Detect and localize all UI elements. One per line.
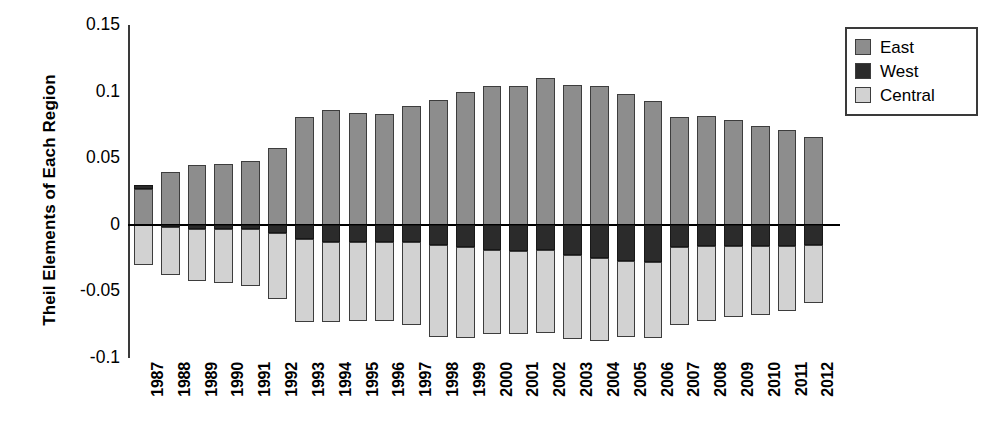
bar-segment-west[interactable] [456,225,475,248]
bar-segment-east[interactable] [644,101,663,225]
bar-segment-west[interactable] [617,225,636,261]
bar-segment-east[interactable] [214,164,233,225]
bar-segment-central[interactable] [536,250,555,333]
bar-segment-central[interactable] [241,229,260,286]
bar-segment-west[interactable] [349,225,368,242]
bar-segment-central[interactable] [778,246,797,311]
bar-group[interactable] [536,25,555,358]
bar-segment-west[interactable] [563,225,582,256]
bar-segment-west[interactable] [322,225,341,242]
bar-group[interactable] [295,25,314,358]
bar-segment-west[interactable] [483,225,502,250]
bar-group[interactable] [268,25,287,358]
bar-segment-central[interactable] [268,233,287,300]
bar-segment-east[interactable] [134,189,153,225]
bar-segment-west[interactable] [241,225,260,229]
bar-segment-west[interactable] [214,225,233,229]
legend-item[interactable]: East [855,35,968,59]
bar-segment-east[interactable] [536,78,555,225]
legend-item[interactable]: Central [855,83,968,107]
bar-group[interactable] [161,25,180,358]
bar-segment-west[interactable] [375,225,394,242]
bar-segment-east[interactable] [456,92,475,225]
bar-segment-central[interactable] [751,246,770,315]
bar-segment-central[interactable] [322,242,341,322]
bar-group[interactable] [804,25,823,358]
bar-segment-central[interactable] [644,262,663,338]
bar-segment-east[interactable] [188,165,207,225]
bar-segment-west[interactable] [268,225,287,233]
bar-group[interactable] [241,25,260,358]
bar-segment-east[interactable] [804,137,823,225]
bar-group[interactable] [697,25,716,358]
bar-segment-west[interactable] [804,225,823,245]
bar-segment-central[interactable] [563,255,582,339]
legend-item[interactable]: West [855,59,968,83]
bar-segment-west[interactable] [429,225,448,245]
bar-segment-east[interactable] [509,86,528,225]
bar-segment-west[interactable] [724,225,743,246]
bar-segment-central[interactable] [402,242,421,325]
bar-segment-west[interactable] [644,225,663,262]
bar-segment-west[interactable] [295,225,314,240]
bar-group[interactable] [670,25,689,358]
bar-segment-east[interactable] [429,100,448,225]
bar-group[interactable] [778,25,797,358]
bar-group[interactable] [375,25,394,358]
bar-segment-east[interactable] [617,94,636,225]
bar-segment-east[interactable] [268,148,287,225]
bar-segment-central[interactable] [375,242,394,321]
bar-group[interactable] [483,25,502,358]
bar-segment-west[interactable] [751,225,770,246]
bar-group[interactable] [590,25,609,358]
bar-segment-east[interactable] [563,85,582,225]
bar-segment-west[interactable] [134,185,153,189]
bar-segment-east[interactable] [751,126,770,225]
bar-segment-west[interactable] [697,225,716,246]
bar-segment-east[interactable] [590,86,609,225]
bar-segment-west[interactable] [402,225,421,242]
bar-group[interactable] [617,25,636,358]
bar-segment-east[interactable] [483,86,502,225]
bar-segment-central[interactable] [429,245,448,337]
bar-group[interactable] [402,25,421,358]
bar-segment-west[interactable] [161,225,180,228]
bar-segment-west[interactable] [509,225,528,252]
bar-segment-east[interactable] [295,117,314,225]
bar-segment-east[interactable] [697,116,716,225]
bar-segment-west[interactable] [188,225,207,229]
bar-segment-central[interactable] [161,227,180,275]
bar-segment-east[interactable] [161,172,180,225]
bar-segment-east[interactable] [349,113,368,225]
bar-group[interactable] [724,25,743,358]
bar-segment-east[interactable] [778,130,797,225]
bar-segment-central[interactable] [617,261,636,337]
bar-segment-east[interactable] [375,114,394,225]
bar-group[interactable] [563,25,582,358]
bar-group[interactable] [644,25,663,358]
bar-segment-east[interactable] [322,110,341,225]
bar-segment-central[interactable] [349,242,368,321]
bar-group[interactable] [188,25,207,358]
bar-group[interactable] [429,25,448,358]
bar-segment-central[interactable] [509,251,528,334]
bar-segment-central[interactable] [804,245,823,304]
bar-group[interactable] [456,25,475,358]
bar-group[interactable] [322,25,341,358]
bar-segment-central[interactable] [188,229,207,281]
bar-group[interactable] [134,25,153,358]
bar-segment-west[interactable] [536,225,555,250]
bar-segment-central[interactable] [724,246,743,317]
bar-segment-central[interactable] [295,239,314,322]
bar-segment-east[interactable] [724,120,743,225]
bar-segment-central[interactable] [456,247,475,338]
bar-segment-central[interactable] [697,246,716,321]
bar-segment-east[interactable] [241,161,260,225]
bar-group[interactable] [509,25,528,358]
bar-segment-east[interactable] [402,106,421,225]
bar-segment-central[interactable] [590,258,609,341]
bar-segment-central[interactable] [214,229,233,284]
bar-segment-central[interactable] [483,250,502,334]
bar-segment-central[interactable] [670,247,689,324]
bar-group[interactable] [349,25,368,358]
